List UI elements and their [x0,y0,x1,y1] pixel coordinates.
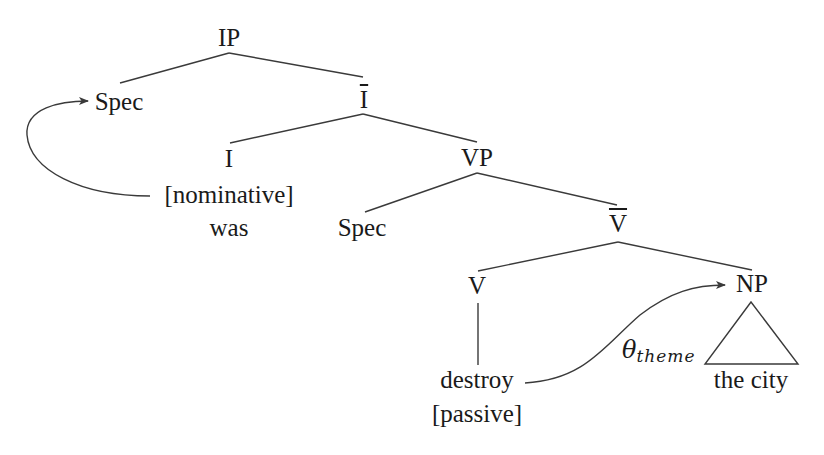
edge-ip-spec [120,53,229,83]
edge-vp-spec [365,173,477,212]
theta-symbol: θ [622,336,636,364]
node-passive: [passive] [432,400,522,428]
node-v: V [468,272,486,300]
np-triangle [705,302,798,364]
edge-ibar-vp [363,114,477,142]
node-np: NP [736,270,768,298]
syntax-tree-diagram: IP Spec I I [nominative] was VP Spec V V… [0,0,824,455]
node-v-bar: V [609,210,627,238]
node-spec-vp: Spec [338,214,387,242]
node-was: was [210,214,249,242]
theta-theme-label: θtheme [622,336,695,370]
node-nominative: [nominative] [164,181,293,209]
edge-ibar-i [230,114,363,143]
edge-vbar-np [618,242,752,270]
node-ip: IP [218,24,240,52]
edge-ip-ibar [229,53,363,77]
theta-subscript: theme [636,346,695,366]
node-spec-ip: Spec [95,88,144,116]
node-the-city: the city [714,366,788,394]
tree-edges [0,0,824,455]
node-i: I [225,145,233,173]
edge-vbar-v [478,242,618,271]
node-i-bar: I [360,86,368,114]
node-destroy: destroy [440,366,514,394]
node-vp: VP [461,144,493,172]
edge-vp-vbar [477,173,617,205]
